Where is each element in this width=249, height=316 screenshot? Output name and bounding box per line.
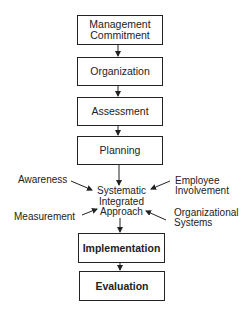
step-label: Management Commitment (89, 19, 150, 41)
input-employee-involvement: Employee Involvement (175, 176, 229, 196)
input-organizational-systems: Organizational Systems (174, 208, 238, 228)
step-label: Evaluation (95, 281, 148, 292)
input-awareness: Awareness (18, 175, 67, 185)
step-label: Implementation (83, 243, 161, 254)
center-approach: Systematic Integrated Approach (97, 186, 146, 218)
step-management-commitment: Management Commitment (77, 15, 163, 45)
step-label: Planning (100, 145, 141, 156)
step-implementation: Implementation (78, 233, 165, 263)
step-planning: Planning (77, 136, 163, 165)
step-evaluation: Evaluation (79, 271, 165, 301)
step-label: Assessment (91, 106, 148, 117)
step-organization: Organization (77, 57, 163, 86)
step-assessment: Assessment (77, 97, 163, 126)
step-label: Organization (90, 66, 150, 77)
input-measurement: Measurement (14, 212, 75, 222)
